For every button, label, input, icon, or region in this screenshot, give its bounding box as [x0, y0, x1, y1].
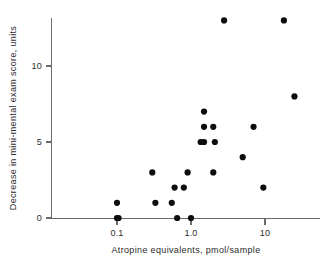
y-axis-ticks: 0510: [32, 61, 52, 223]
data-point: [171, 185, 177, 191]
data-point: [169, 200, 175, 206]
data-point: [281, 17, 287, 23]
data-point: [291, 93, 297, 99]
data-point: [201, 124, 207, 130]
y-tick-label: 0: [37, 213, 42, 223]
x-tick-label: 0.1: [110, 228, 123, 238]
data-point: [114, 200, 120, 206]
data-point: [201, 109, 207, 115]
data-point: [185, 169, 191, 175]
data-point: [221, 17, 227, 23]
x-tick-label: 1.0: [184, 228, 197, 238]
data-point: [115, 215, 121, 221]
scatter-plot-figure: 0510 0.11.010 Atropine equivalents, pmol…: [0, 0, 329, 265]
x-tick-label: 10: [260, 228, 270, 238]
y-tick-label: 10: [32, 61, 42, 71]
x-axis-ticks: 0.11.010: [110, 219, 270, 239]
y-axis-title: Decrease in mini-mental exam score, unit…: [8, 26, 18, 211]
data-point: [250, 124, 256, 130]
y-tick-label: 5: [37, 137, 42, 147]
data-point: [181, 185, 187, 191]
plot-canvas: 0510 0.11.010 Atropine equivalents, pmol…: [0, 0, 329, 265]
data-point: [210, 124, 216, 130]
data-point: [174, 215, 180, 221]
x-axis-title: Atropine equivalents, pmol/sample: [111, 245, 260, 255]
data-point: [260, 185, 266, 191]
data-points-group: [114, 17, 298, 221]
data-point: [152, 200, 158, 206]
data-point: [212, 139, 218, 145]
data-point: [201, 139, 207, 145]
data-point: [210, 169, 216, 175]
data-point: [188, 215, 194, 221]
data-point: [240, 154, 246, 160]
data-point: [149, 169, 155, 175]
